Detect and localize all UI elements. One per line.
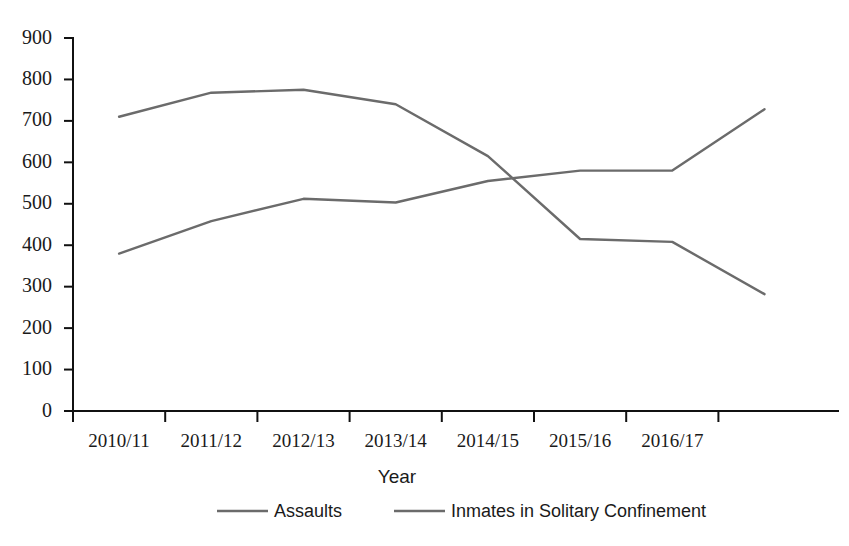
y-axis-tick-label: 700: [22, 108, 52, 130]
line-chart: 0100200300400500600700800900 2010/112011…: [0, 0, 849, 546]
y-axis-tick-marks: [64, 38, 73, 411]
y-axis-tick-label: 600: [22, 150, 52, 172]
y-axis-tick-label: 900: [22, 26, 52, 48]
x-axis-tick-label: 2014/15: [457, 430, 519, 451]
x-axis-title: Year: [378, 466, 417, 487]
y-axis-tick-label: 400: [22, 233, 52, 255]
x-axis-tick-label: 2012/13: [272, 430, 334, 451]
y-axis-tick-label: 500: [22, 191, 52, 213]
x-axis-tick-marks: [73, 411, 718, 422]
x-axis-tick-label: 2011/12: [181, 430, 243, 451]
legend-label-solitary-confinement: Inmates in Solitary Confinement: [451, 501, 706, 521]
legend-label-assaults: Assaults: [274, 501, 342, 521]
y-axis-tick-labels: 0100200300400500600700800900: [22, 26, 52, 421]
x-axis-tick-label: 2016/17: [641, 430, 703, 451]
chart-axes: [73, 38, 838, 411]
chart-canvas: 0100200300400500600700800900 2010/112011…: [0, 0, 849, 546]
y-axis-tick-label: 800: [22, 67, 52, 89]
y-axis-tick-label: 0: [42, 399, 52, 421]
y-axis-tick-label: 300: [22, 274, 52, 296]
x-axis-tick-label: 2010/11: [88, 430, 150, 451]
x-axis-tick-label: 2015/16: [549, 430, 611, 451]
chart-legend: Assaults Inmates in Solitary Confinement: [217, 501, 706, 521]
x-axis-tick-label: 2013/14: [365, 430, 428, 451]
y-axis-tick-label: 200: [22, 316, 52, 338]
y-axis-tick-label: 100: [22, 357, 52, 379]
x-axis-tick-labels: 2010/112011/122012/132013/142014/152015/…: [88, 430, 703, 451]
